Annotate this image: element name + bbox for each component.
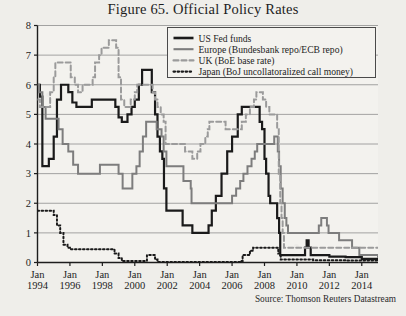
y-tick-label-3: 3 [26,168,31,179]
x-tick-label-bottom-2008: 2008 [254,280,275,291]
x-tick-label-bottom-1994: 1994 [27,280,49,291]
y-tick-label-0: 0 [26,257,31,268]
x-tick-label-top-2014: Jan [355,269,370,280]
x-tick-label-top-1994: Jan [31,269,46,280]
figure-page: Figure 65. Official Policy Rates 0123456… [0,0,406,316]
y-tick-label-4: 4 [26,139,32,150]
x-tick-label-bottom-2004: 2004 [189,280,211,291]
x-tick-label-bottom-1996: 1996 [59,280,80,291]
x-tick-label-bottom-2010: 2010 [286,280,307,291]
x-tick-label-top-2010: Jan [290,269,305,280]
legend-label-1: Europe (Bundesbank repo/ECB repo) [199,44,343,56]
legend-label-3: Japan (BoJ uncollatoralized call money) [199,66,354,78]
x-tick-label-top-2000: Jan [128,269,143,280]
x-tick-label-top-1996: Jan [63,269,78,280]
y-tick-label-7: 7 [26,50,31,61]
x-tick-label-bottom-2014: 2014 [351,280,373,291]
x-tick-label-bottom-1998: 1998 [92,280,113,291]
x-tick-label-top-2004: Jan [193,269,208,280]
x-tick-label-top-2008: Jan [258,269,273,280]
y-tick-label-8: 8 [26,20,31,31]
x-tick-label-top-2002: Jan [160,269,175,280]
y-tick-label-5: 5 [26,109,31,120]
legend-label-0: US Fed funds [199,33,252,44]
y-tick-label-2: 2 [26,198,31,209]
x-tick-label-bottom-2002: 2002 [157,280,178,291]
legend-label-2: UK (BoE base rate) [199,55,275,67]
x-tick-label-top-2012: Jan [322,269,337,280]
x-tick-label-bottom-2006: 2006 [222,280,243,291]
x-tick-label-bottom-2000: 2000 [124,280,145,291]
policy-rates-chart: 012345678Jan1994Jan1996Jan1998Jan2000Jan… [0,0,406,316]
x-tick-label-top-2006: Jan [225,269,240,280]
x-tick-label-top-1998: Jan [95,269,110,280]
y-tick-label-1: 1 [26,228,31,239]
source-note: Source: Thomson Reuters Datastream [255,294,396,304]
x-tick-label-bottom-2012: 2012 [319,280,340,291]
y-tick-label-6: 6 [26,80,31,91]
